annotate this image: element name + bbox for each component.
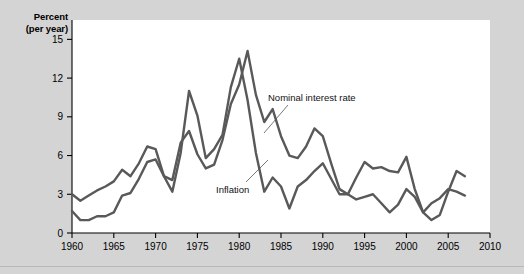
chart-svg: 03691215 1960196519701975198019851990199… (0, 0, 524, 274)
x-tick-label: 1960 (61, 241, 84, 252)
x-tick-label: 1970 (144, 241, 167, 252)
figure-container: Percent (per year) 03691215 196019651970… (0, 0, 524, 274)
x-tick-label: 2005 (437, 241, 460, 252)
x-tick-label: 2010 (479, 241, 502, 252)
bottom-divider (0, 266, 524, 267)
x-tick-label: 1975 (186, 241, 209, 252)
x-tick-label: 1995 (353, 241, 376, 252)
y-tick-label: 9 (57, 111, 63, 122)
x-tick-label: 1980 (228, 241, 251, 252)
x-tick-label: 1990 (312, 241, 335, 252)
y-tick-label: 12 (52, 73, 64, 84)
series-line-inflation (72, 59, 465, 220)
series-label-inflation: Inflation (216, 184, 249, 195)
y-tick-label: 3 (57, 189, 63, 200)
x-tick-label: 2000 (395, 241, 418, 252)
y-tick-label: 0 (57, 228, 63, 239)
y-axis-ticks: 03691215 (52, 34, 72, 239)
x-axis-ticks: 1960196519701975198019851990199520002005… (61, 233, 502, 252)
series-line-nominal-interest-rate (72, 51, 465, 220)
x-tick-label: 1985 (270, 241, 293, 252)
series-label-nominal-interest-rate: Nominal interest rate (268, 92, 356, 103)
x-tick-label: 1965 (103, 241, 126, 252)
y-tick-label: 15 (52, 34, 64, 45)
y-tick-label: 6 (57, 150, 63, 161)
